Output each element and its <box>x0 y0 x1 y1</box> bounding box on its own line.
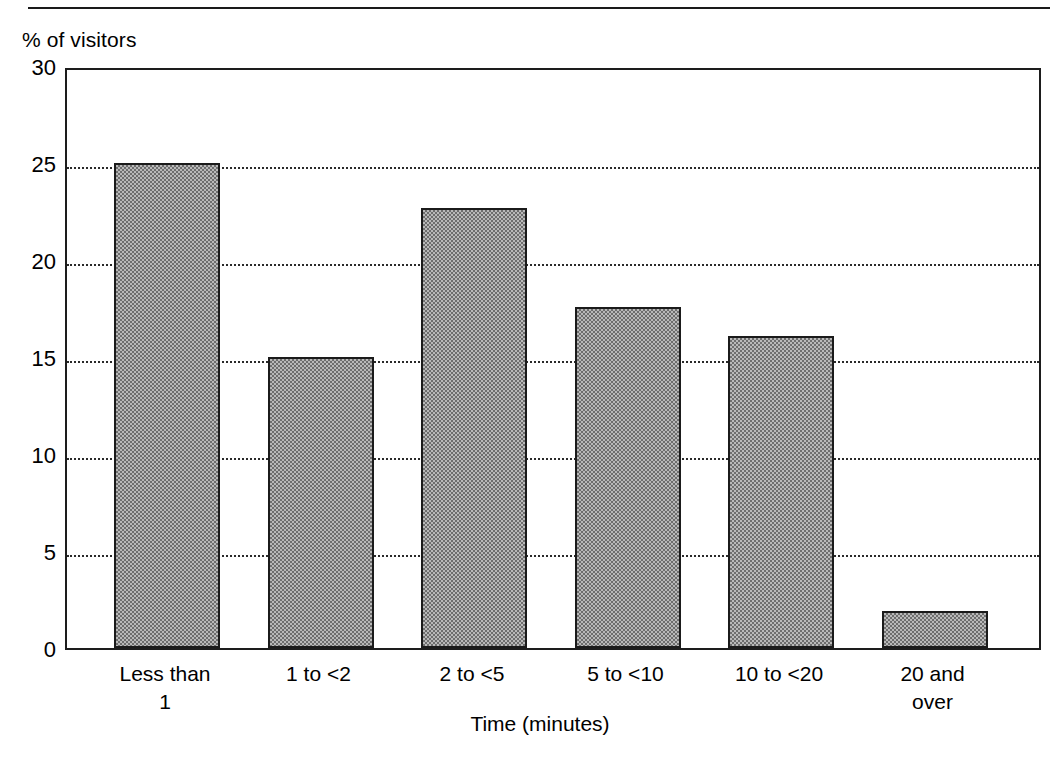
y-tick-label: 15 <box>10 348 56 370</box>
y-axis-tick-labels: 051015202530 <box>0 68 56 650</box>
bar <box>882 611 988 648</box>
y-axis-label: % of visitors <box>22 28 137 52</box>
x-tick-label: 20 andover <box>843 660 1023 716</box>
bar-chart: % of visitors 051015202530 Less than11 t… <box>0 0 1056 765</box>
y-tick-label: 10 <box>10 445 56 467</box>
bar <box>575 307 681 648</box>
x-tick-label-line: 20 and <box>843 660 1023 688</box>
y-tick-label: 25 <box>10 154 56 176</box>
plot-area <box>65 68 1041 650</box>
y-tick-label: 30 <box>10 57 56 79</box>
bar <box>114 163 220 648</box>
y-tick-label: 0 <box>10 639 56 661</box>
x-axis-label: Time (minutes) <box>0 712 1056 736</box>
bar <box>728 336 834 648</box>
bar <box>421 208 527 648</box>
y-tick-label: 5 <box>10 542 56 564</box>
y-tick-label: 20 <box>10 251 56 273</box>
bar <box>268 357 374 648</box>
